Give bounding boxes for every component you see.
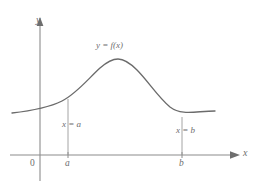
tick-label-b: b (179, 159, 184, 169)
y-axis-label: y (36, 15, 40, 25)
curve-function-label: y = f(x) (96, 41, 123, 50)
tick-label-a: a (65, 159, 70, 169)
x-axis-label: x (243, 148, 247, 158)
figure-canvas: y x 0 a b y = f(x) x = a x = b (0, 0, 262, 186)
vertical-line-a-label: x = a (62, 120, 81, 129)
function-curve (12, 59, 215, 113)
origin-label: 0 (30, 159, 35, 169)
vertical-line-b-label: x = b (176, 126, 195, 135)
x-axis-arrowhead (230, 151, 240, 159)
